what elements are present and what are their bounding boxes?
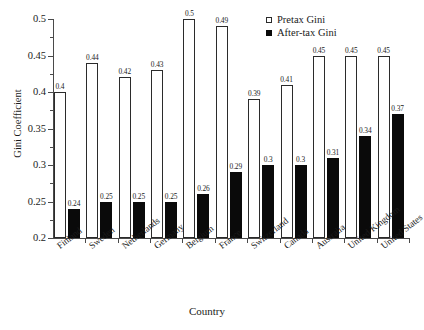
bar-value-label-pretax: 0.45 — [307, 47, 331, 55]
bar-pretax — [216, 26, 228, 238]
bar-value-label-pretax: 0.45 — [372, 47, 396, 55]
legend-item-aftertax: After-tax Gini — [266, 26, 337, 39]
y-tick — [48, 56, 53, 57]
bar-pretax — [345, 56, 357, 239]
x-tick — [409, 238, 410, 243]
bar-value-label-pretax: 0.5 — [177, 10, 201, 18]
bar-value-label-aftertax: 0.26 — [191, 185, 215, 193]
bar-pretax — [86, 63, 98, 238]
bar-value-label-pretax: 0.49 — [210, 17, 234, 25]
bar-pretax — [54, 92, 66, 238]
x-axis-title: Country — [0, 305, 414, 317]
y-tick-minor — [50, 147, 53, 148]
y-tick-minor — [50, 37, 53, 38]
bar-value-label-aftertax: 0.37 — [386, 105, 410, 113]
bar-pretax — [119, 77, 131, 238]
y-tick-minor — [50, 110, 53, 111]
open-square-icon — [266, 17, 272, 23]
bar-value-label-pretax: 0.39 — [242, 90, 266, 98]
bar-pretax — [248, 99, 260, 238]
legend-item-pretax: Pretax Gini — [266, 13, 337, 26]
y-tick-label: 0.35 — [0, 124, 46, 134]
y-tick-label: 0.2 — [0, 233, 46, 243]
bar-value-label-aftertax: 0.25 — [127, 193, 151, 201]
y-tick-minor — [50, 183, 53, 184]
bar-value-label-aftertax: 0.25 — [159, 193, 183, 201]
y-tick — [48, 202, 53, 203]
y-tick — [48, 19, 53, 20]
y-tick-label: 0.3 — [0, 160, 46, 170]
y-tick — [48, 238, 53, 239]
filled-square-icon — [266, 30, 272, 36]
y-tick — [48, 165, 53, 166]
bar-value-label-aftertax: 0.3 — [256, 156, 280, 164]
bar-pretax — [183, 19, 195, 238]
bar-value-label-aftertax: 0.34 — [353, 127, 377, 135]
y-tick-label: 0.25 — [0, 197, 46, 207]
bar-value-label-pretax: 0.4 — [48, 83, 72, 91]
bar-value-label-aftertax: 0.31 — [321, 149, 345, 157]
bar-value-label-pretax: 0.43 — [145, 61, 169, 69]
y-tick-label: 0.4 — [0, 87, 46, 97]
bar-value-label-pretax: 0.44 — [80, 54, 104, 62]
y-tick — [48, 129, 53, 130]
bar-pretax — [151, 70, 163, 238]
bar-value-label-pretax: 0.45 — [339, 47, 363, 55]
bar-value-label-aftertax: 0.29 — [224, 163, 248, 171]
bar-aftertax — [359, 136, 371, 238]
y-tick-minor — [50, 74, 53, 75]
y-tick-label: 0.45 — [0, 51, 46, 61]
y-tick — [48, 92, 53, 93]
chart-legend: Pretax Gini After-tax Gini — [266, 13, 337, 39]
bar-value-label-aftertax: 0.3 — [289, 156, 313, 164]
bar-value-label-aftertax: 0.24 — [62, 200, 86, 208]
bar-aftertax — [392, 114, 404, 238]
legend-label-pretax: Pretax Gini — [277, 13, 325, 26]
bar-pretax — [313, 56, 325, 239]
legend-label-aftertax: After-tax Gini — [277, 26, 337, 39]
bar-value-label-pretax: 0.42 — [113, 68, 137, 76]
y-tick-minor — [50, 220, 53, 221]
bar-value-label-aftertax: 0.25 — [94, 193, 118, 201]
bar-value-label-pretax: 0.41 — [275, 76, 299, 84]
y-tick-label: 0.5 — [0, 14, 46, 24]
